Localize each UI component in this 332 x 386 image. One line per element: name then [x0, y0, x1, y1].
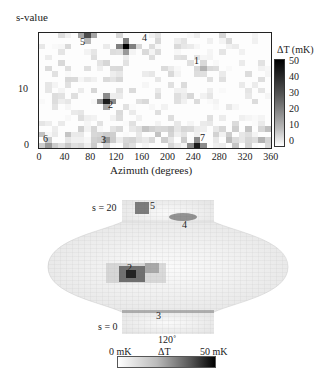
bulb-annotation-3: 3	[156, 311, 161, 321]
bulb-annotation-2: 2	[127, 263, 132, 273]
s0-label: s = 0	[98, 322, 118, 332]
bulb-annotation-5: 5	[150, 201, 155, 211]
bulb-surface	[0, 0, 332, 386]
azimuth-120-label: 120˚	[158, 335, 176, 345]
horizontal-colorbar	[117, 356, 216, 368]
s20-label: s = 20	[92, 203, 117, 213]
bulb-annotation-4: 4	[182, 220, 187, 230]
